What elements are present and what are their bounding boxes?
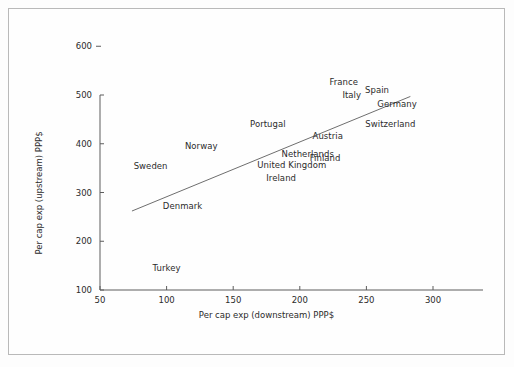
- x-tick-label: 200: [292, 295, 308, 305]
- x-axis-title: Per cap exp (downstream) PPP$: [199, 310, 334, 320]
- y-tick-label: 200: [76, 236, 92, 246]
- data-point-label: Italy: [342, 91, 361, 100]
- y-tick-label: 300: [76, 188, 92, 198]
- data-point-label: France: [329, 77, 358, 86]
- data-point-label: Portugal: [250, 119, 286, 128]
- x-tick-label: 300: [425, 295, 441, 305]
- data-point-label: Switzerland: [365, 119, 415, 128]
- data-point-label: Sweden: [134, 161, 168, 170]
- trend-line-group: [132, 96, 410, 211]
- x-tick-label: 250: [358, 295, 374, 305]
- data-point-label: Norway: [185, 141, 218, 150]
- data-point-label: Spain: [365, 85, 389, 94]
- y-tick-label: 600: [76, 41, 92, 51]
- x-tick-label: 150: [225, 295, 241, 305]
- data-point-label: Ireland: [266, 173, 296, 182]
- trend-line: [132, 96, 410, 211]
- y-tick-label: 100: [76, 285, 92, 295]
- data-point-label: Denmark: [163, 202, 202, 211]
- chart-page: TurkeyDenmarkSwedenNorwayPortugalIreland…: [0, 0, 514, 367]
- data-point-label: Germany: [377, 100, 416, 109]
- y-tick-label: 400: [76, 139, 92, 149]
- data-point-label: Turkey: [153, 264, 181, 273]
- y-axis-title: Per cap exp (upstream) PPP$: [34, 131, 44, 254]
- x-tick-label: 50: [95, 295, 106, 305]
- x-tick-label: 100: [158, 295, 174, 305]
- y-tick-label: 500: [76, 90, 92, 100]
- data-point-label: Finland: [310, 154, 341, 163]
- data-point-label: Austria: [313, 132, 343, 141]
